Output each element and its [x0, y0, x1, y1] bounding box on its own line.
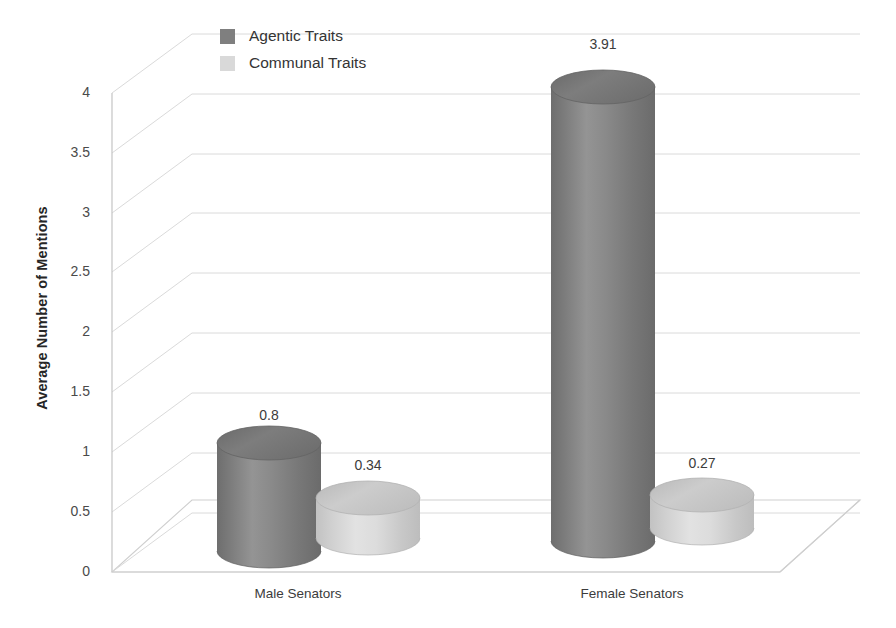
value-label-female-agentic: 3.91	[563, 36, 643, 52]
chart-canvas	[0, 0, 896, 628]
y-tick-2: 2	[44, 323, 90, 339]
x-tick-male-senators: Male Senators	[198, 586, 398, 601]
value-label-male-communal: 0.34	[328, 457, 408, 473]
y-tick-2-5: 2.5	[44, 263, 90, 279]
legend-label-communal: Communal Traits	[249, 54, 366, 72]
y-tick-1: 1	[44, 443, 90, 459]
value-label-female-communal: 0.27	[662, 455, 742, 471]
legend-swatch-communal-icon	[220, 56, 235, 71]
bar-male-communal[interactable]	[316, 481, 420, 555]
chart-container: Average Number of Mentions 4 3.5 3 2.5 2…	[0, 0, 896, 628]
bar-male-agentic[interactable]	[217, 426, 321, 568]
legend-label-agentic: Agentic Traits	[249, 27, 343, 45]
bar-female-agentic[interactable]	[551, 70, 655, 558]
legend-swatch-agentic-icon	[220, 29, 235, 44]
bar-female-communal[interactable]	[650, 478, 754, 545]
y-tick-4: 4	[44, 84, 90, 100]
y-tick-3-5: 3.5	[44, 144, 90, 160]
legend-item-agentic-traits[interactable]: Agentic Traits	[220, 24, 366, 48]
legend-item-communal-traits[interactable]: Communal Traits	[220, 51, 366, 75]
value-label-male-agentic: 0.8	[229, 407, 309, 423]
x-tick-female-senators: Female Senators	[532, 586, 732, 601]
y-tick-0: 0	[44, 563, 90, 579]
y-tick-3: 3	[44, 204, 90, 220]
y-tick-0-5: 0.5	[44, 503, 90, 519]
y-tick-1-5: 1.5	[44, 383, 90, 399]
chart-legend: Agentic Traits Communal Traits	[220, 24, 366, 78]
